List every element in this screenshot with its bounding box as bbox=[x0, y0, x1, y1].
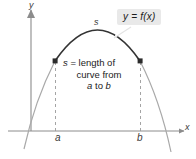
arc-length-label-s: s bbox=[94, 18, 99, 27]
arc-length-figure: y x a b s y = f(x) s = length of curve f… bbox=[0, 0, 196, 159]
x-tick-label-b: b bbox=[137, 133, 143, 143]
curve-extension-left bbox=[24, 61, 55, 149]
annotation-line-2: curve from bbox=[57, 69, 141, 81]
function-callout-label: y = f(x) bbox=[117, 9, 161, 25]
curve-extension-right bbox=[140, 61, 171, 152]
annotation-line-3-mid: to bbox=[92, 80, 105, 91]
annotation-text-block: s = length of curve from a to b bbox=[57, 57, 141, 92]
annotation-line-1: s = length of bbox=[57, 57, 141, 69]
annotation-line-3: a to b bbox=[57, 80, 141, 92]
annotation-b-symbol: b bbox=[106, 80, 111, 91]
x-axis-label: x bbox=[185, 123, 190, 132]
x-tick-label-a: a bbox=[55, 133, 61, 143]
annotation-line-1-rest: = length of bbox=[68, 57, 115, 68]
y-axis-label: y bbox=[29, 1, 34, 10]
